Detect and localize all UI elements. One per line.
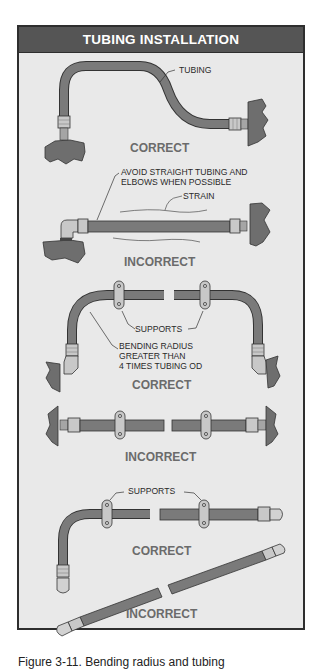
figure-caption: Figure 3-11. Bending radius and tubing [18, 655, 225, 669]
panel-2-verdict: INCORRECT [124, 255, 195, 269]
panel-4-verdict: INCORRECT [125, 450, 196, 464]
panel-6-verdict: INCORRECT [126, 607, 197, 621]
panel-5-drawing [57, 492, 283, 593]
strain-label: STRAIN [183, 192, 215, 202]
strain-line-bottom [113, 238, 200, 242]
tubing-label: TUBING [179, 66, 211, 76]
bend-label-line3: 4 TIMES TUBING OD [119, 362, 202, 372]
straight-tube [88, 221, 230, 232]
panel-3-verdict: CORRECT [132, 378, 191, 392]
supports-label-2: SUPPORTS [128, 487, 175, 497]
mounting-surface-right [248, 99, 268, 146]
elbow-fitting [61, 220, 78, 238]
strain-line-top [120, 210, 207, 213]
panel-4-drawing [46, 406, 278, 446]
supports-label-1: SUPPORTS [135, 325, 182, 335]
panel-3-drawing [46, 281, 280, 392]
panel-5-verdict: CORRECT [132, 544, 191, 558]
panel-1-verdict: CORRECT [130, 141, 189, 155]
mounting-surface-left [45, 140, 85, 164]
avoid-label-line2: ELBOWS WHEN POSSIBLE [121, 178, 231, 188]
